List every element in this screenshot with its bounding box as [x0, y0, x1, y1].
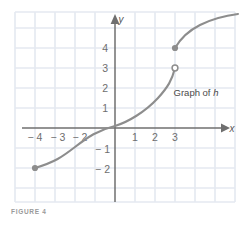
- figure-container: x y 4 3 2 1 − 1 − 2 − 4 − 3 − 2 1 2 3 Gr…: [0, 0, 246, 227]
- x-axis-label: x: [229, 123, 236, 134]
- x-tick-label-1: 1: [132, 131, 138, 143]
- grid-lines: [15, 12, 235, 202]
- y-axis-label: y: [118, 14, 125, 25]
- open-dot-endpoint-at-x3-y3: [172, 65, 178, 71]
- closed-dot-endpoint-left: [32, 165, 38, 171]
- y-tick-label-1: 1: [102, 102, 108, 114]
- curve-branch-upper: [175, 14, 238, 48]
- x-tick-label-neg2: − 2: [73, 131, 88, 143]
- annotation-prefix-text: Graph of: [174, 87, 214, 98]
- graph-canvas: x y 4 3 2 1 − 1 − 2 − 4 − 3 − 2 1 2 3 Gr…: [0, 0, 246, 227]
- x-tick-label-neg4: − 4: [28, 131, 43, 143]
- figure-caption: FIGURE 4: [11, 208, 47, 215]
- y-tick-label-neg2: − 2: [95, 163, 110, 175]
- closed-dot-endpoint-at-x3-y4: [172, 45, 178, 51]
- graph-of-h-annotation: Graph of h: [174, 87, 219, 98]
- y-tick-label-neg1: − 1: [95, 143, 110, 155]
- y-tick-label-2: 2: [102, 82, 108, 94]
- y-tick-label-3: 3: [102, 62, 108, 74]
- x-tick-label-3: 3: [172, 131, 178, 143]
- annotation-function-name: h: [213, 87, 218, 98]
- y-tick-label-4: 4: [102, 42, 108, 54]
- x-tick-label-2: 2: [152, 131, 158, 143]
- x-tick-label-neg3: − 3: [51, 131, 66, 143]
